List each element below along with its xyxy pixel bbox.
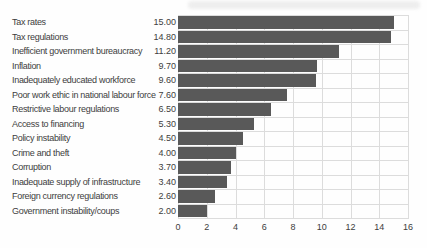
category-label: Inadequately educated workforce — [12, 75, 135, 85]
plot-area — [178, 15, 409, 219]
bar — [178, 176, 227, 189]
value-label: 4.50 — [158, 133, 176, 143]
x-axis-tick-label: 16 — [403, 222, 413, 232]
chart-row: Foreign currency regulations2.60 — [12, 189, 176, 204]
value-label: 7.60 — [158, 90, 176, 100]
bar — [178, 45, 339, 58]
value-label: 3.70 — [158, 162, 176, 172]
bar — [178, 205, 207, 218]
category-label: Restrictive labour regulations — [12, 104, 119, 114]
value-label: 9.70 — [158, 61, 176, 71]
value-label: 2.60 — [158, 191, 176, 201]
x-axis-tick-label: 12 — [345, 222, 355, 232]
chart-row: Inflation9.70 — [12, 59, 176, 74]
chart-row: Tax rates15.00 — [12, 15, 176, 30]
value-label: 5.30 — [158, 119, 176, 129]
bar — [178, 118, 254, 131]
bar — [178, 147, 236, 160]
x-axis-tick-label: 10 — [317, 222, 327, 232]
bar — [178, 103, 271, 116]
x-axis-tick-label: 4 — [233, 222, 238, 232]
x-axis-tick-label: 14 — [374, 222, 384, 232]
bar — [178, 16, 394, 29]
chart-row: Access to financing5.30 — [12, 117, 176, 132]
value-label: 14.80 — [153, 32, 176, 42]
value-label: 3.40 — [158, 177, 176, 187]
chart-row: Poor work ethic in national labour force… — [12, 88, 176, 103]
category-label: Policy instability — [12, 133, 70, 143]
chart-row: Inefficient government bureaucracy11.20 — [12, 44, 176, 59]
value-label: 6.50 — [158, 104, 176, 114]
category-label: Poor work ethic in national labour force — [12, 90, 156, 100]
bar — [178, 31, 391, 44]
x-axis: 0246810121416 — [178, 222, 409, 234]
x-axis-tick-label: 6 — [262, 222, 267, 232]
chart-row: Restrictive labour regulations6.50 — [12, 102, 176, 117]
scan-shadow-artifact — [188, 1, 420, 9]
bar — [178, 74, 316, 87]
value-label: 15.00 — [153, 17, 176, 27]
bar — [178, 190, 215, 203]
category-label: Tax regulations — [12, 32, 68, 42]
value-label: 11.20 — [154, 46, 176, 56]
chart-row: Inadequate supply of infrastructure3.40 — [12, 175, 176, 190]
category-label: Corruption — [12, 162, 51, 172]
value-label: 4.00 — [158, 148, 176, 158]
value-label: 9.60 — [158, 75, 176, 85]
chart-row: Policy instability4.50 — [12, 131, 176, 146]
category-label: Crime and theft — [12, 148, 69, 158]
x-axis-tick-label: 2 — [204, 222, 209, 232]
x-axis-tick-label: 8 — [290, 222, 295, 232]
bar — [178, 161, 231, 174]
x-axis-tick-label: 0 — [175, 222, 180, 232]
category-label-column: Tax rates15.00Tax regulations14.80Ineffi… — [12, 15, 176, 219]
category-label: Inflation — [12, 61, 41, 71]
category-label: Government instability/coups — [12, 206, 119, 216]
chart-row: Tax regulations14.80 — [12, 30, 176, 45]
category-label: Inadequate supply of infrastructure — [12, 177, 140, 187]
bar — [178, 132, 243, 145]
bar — [178, 89, 287, 102]
chart-row: Inadequately educated workforce9.60 — [12, 73, 176, 88]
category-label: Foreign currency regulations — [12, 191, 118, 201]
value-label: 2.00 — [158, 206, 176, 216]
chart-row: Corruption3.70 — [12, 160, 176, 175]
category-label: Tax rates — [12, 17, 46, 27]
category-label: Inefficient government bureaucracy — [12, 46, 142, 56]
category-label: Access to financing — [12, 119, 84, 129]
chart-row: Crime and theft4.00 — [12, 146, 176, 161]
chart-row: Government instability/coups2.00 — [12, 204, 176, 219]
bar-chart: Tax rates15.00Tax regulations14.80Ineffi… — [0, 0, 427, 248]
bar — [178, 60, 317, 73]
